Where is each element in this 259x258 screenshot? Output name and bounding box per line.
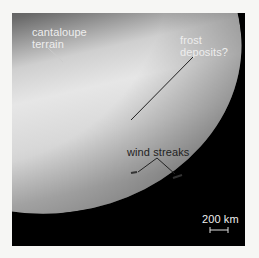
- wind-streak: [173, 175, 182, 178]
- frost-pointer: [131, 57, 193, 120]
- wind-pointer-left: [138, 158, 157, 172]
- scale-label: 200 km: [202, 213, 239, 225]
- cantaloupe-pointer: [47, 47, 63, 62]
- wind-streak: [131, 172, 137, 173]
- wind-pointer-right: [157, 158, 175, 174]
